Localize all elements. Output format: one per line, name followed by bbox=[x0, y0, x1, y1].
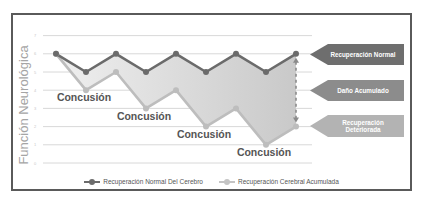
y-tick-label: 7 bbox=[34, 33, 37, 38]
data-point[interactable] bbox=[293, 124, 299, 130]
data-point[interactable] bbox=[263, 69, 269, 75]
y-tick-label: 0 bbox=[34, 161, 37, 166]
y-tick-label: 6 bbox=[34, 51, 37, 56]
callout-2: Daño Acumulado bbox=[310, 80, 404, 101]
callout-1: Recuperación Normal bbox=[310, 44, 404, 65]
legend: Recuperación Normal Del Cerebro Recupera… bbox=[0, 178, 423, 185]
legend-line-marker-icon bbox=[219, 179, 235, 185]
concussion-label: Concusión bbox=[57, 91, 111, 103]
legend-item-normal[interactable]: Recuperación Normal Del Cerebro bbox=[84, 178, 203, 185]
data-point[interactable] bbox=[143, 69, 149, 75]
y-tick-labels: 01234567 bbox=[34, 33, 37, 165]
data-point[interactable] bbox=[233, 51, 239, 57]
concussion-label: Concusión bbox=[177, 128, 231, 140]
data-point[interactable] bbox=[293, 51, 299, 57]
callout-3: RecuperaciónDeteriorada bbox=[310, 115, 404, 137]
data-point[interactable] bbox=[173, 51, 179, 57]
legend-item-accumulated[interactable]: Recuperación Cerebral Acumulada bbox=[219, 178, 339, 185]
y-tick-label: 4 bbox=[34, 88, 37, 93]
y-tick-label: 3 bbox=[34, 106, 37, 111]
data-point[interactable] bbox=[113, 51, 119, 57]
y-tick-label: 5 bbox=[34, 70, 37, 75]
data-point[interactable] bbox=[203, 69, 209, 75]
line-chart: 01234567 ConcusiónConcusiónConcusiónConc… bbox=[0, 0, 423, 207]
legend-line-marker-icon bbox=[84, 179, 100, 185]
y-tick-label: 1 bbox=[34, 142, 37, 147]
svg-text:Daño Acumulado: Daño Acumulado bbox=[337, 87, 389, 94]
y-axis-title: Función Neurológica bbox=[16, 45, 31, 164]
y-tick-label: 2 bbox=[34, 124, 37, 129]
concussion-label: Concusión bbox=[117, 110, 171, 122]
data-point[interactable] bbox=[233, 105, 239, 111]
data-point[interactable] bbox=[173, 87, 179, 93]
data-point[interactable] bbox=[83, 69, 89, 75]
data-point[interactable] bbox=[53, 51, 59, 57]
concussion-label: Concusión bbox=[237, 146, 291, 158]
legend-label-normal: Recuperación Normal Del Cerebro bbox=[103, 178, 203, 185]
svg-text:Deteriorada: Deteriorada bbox=[346, 126, 381, 133]
svg-text:Recuperación Normal: Recuperación Normal bbox=[330, 51, 395, 59]
legend-label-accumulated: Recuperación Cerebral Acumulada bbox=[238, 178, 339, 185]
callout-labels: Recuperación NormalDaño AcumuladoRecuper… bbox=[310, 44, 404, 137]
data-point[interactable] bbox=[113, 69, 119, 75]
